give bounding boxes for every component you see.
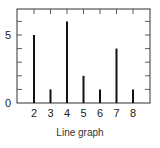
- x-tick-label: 3: [47, 107, 53, 119]
- x-tick-label: 4: [64, 107, 70, 119]
- x-tick-label: 5: [80, 107, 86, 119]
- line-graph-chart: 234567805: [0, 0, 160, 148]
- x-tick-label: 7: [113, 107, 119, 119]
- x-tick-label: 6: [97, 107, 103, 119]
- x-tick-label: 8: [130, 107, 136, 119]
- y-tick-label: 0: [5, 97, 11, 109]
- y-tick-label: 5: [5, 29, 11, 41]
- x-tick-label: 2: [31, 107, 37, 119]
- chart-caption: Line graph: [0, 127, 160, 138]
